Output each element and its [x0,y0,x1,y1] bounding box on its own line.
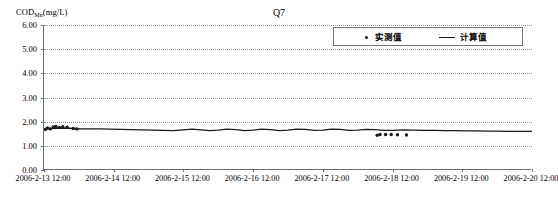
data-point [72,127,75,130]
data-point [378,133,381,136]
data-point [65,126,68,129]
x-tick-label: 2006-2-20 12:00 [504,174,558,183]
data-point [384,133,387,136]
legend-item-measured: 实测值 [365,28,402,47]
data-point [54,125,57,128]
legend-item-calculated: 计算值 [439,28,487,47]
y-tick-label: 6.00 [5,20,37,30]
x-tick-label: 2006-2-15 12:00 [155,174,210,183]
data-point [389,133,392,136]
data-point [396,133,399,136]
y-tick-label: 4.00 [5,68,37,78]
data-point [58,126,61,129]
dot-marker-icon [365,36,368,39]
data-point [49,127,52,130]
chart-container: CODMn(mg/L) Q7 6.005.004.003.002.001.000… [0,0,558,197]
x-tick-label: 2006-2-17 12:00 [294,174,349,183]
data-point [405,133,408,136]
x-tick-mark [532,169,533,172]
calculated-value-line [44,128,532,131]
chart-title: Q7 [0,7,558,18]
x-tick-label: 2006-2-13 12:00 [16,174,71,183]
x-tick-label: 2006-2-19 12:00 [434,174,489,183]
legend-label-measured: 实测值 [375,33,402,42]
y-tick-label: 2.00 [5,117,37,127]
y-tick-label: 5.00 [5,44,37,54]
x-tick-label: 2006-2-14 12:00 [85,174,140,183]
x-tick-label: 2006-2-16 12:00 [225,174,280,183]
legend-box: 实测值 计算值 [333,27,523,46]
data-point [75,127,78,130]
y-tick-label: 3.00 [5,93,37,103]
x-tick-label: 2006-2-18 12:00 [364,174,419,183]
data-point [61,125,64,128]
line-marker-icon [439,37,455,38]
legend-label-calculated: 计算值 [460,33,487,42]
y-tick-label: 1.00 [5,141,37,151]
